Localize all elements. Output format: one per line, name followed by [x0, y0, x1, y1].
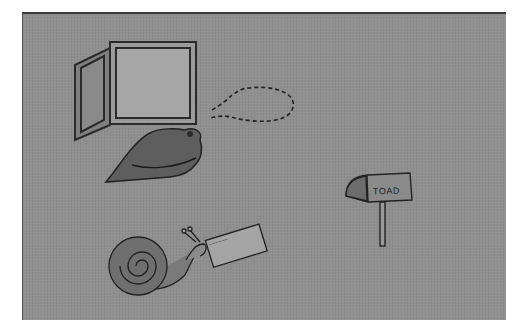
cutouts-layer: [0, 0, 522, 334]
thought-bubble-icon: [210, 87, 293, 121]
mailbox-label: TOAD: [373, 186, 400, 197]
frog-icon: [106, 129, 202, 182]
mailbox-icon: [346, 173, 412, 246]
snail-icon: [109, 227, 206, 295]
window-icon: [75, 42, 196, 140]
